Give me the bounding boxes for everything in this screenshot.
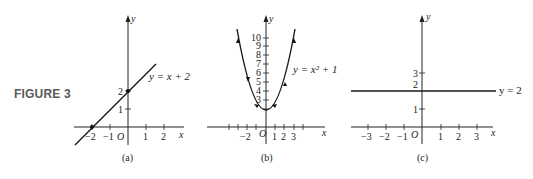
- x-tick-label: 1: [272, 131, 277, 142]
- panel-c: −3 −2 −1 1 2 3 O x y 1 2 3 y = 2 (c): [351, 11, 522, 164]
- x-tick-label: −2: [85, 131, 96, 142]
- y-tick-label: 10: [251, 32, 261, 43]
- origin-label: O: [117, 131, 124, 142]
- x-tick-label: −2: [240, 131, 251, 142]
- y-tick-label: 3: [413, 68, 418, 79]
- panel-b: −2 1 2 3 O x y 3 4 5 6 7 8 9 10 y = x² +…: [207, 13, 337, 164]
- x-tick-label: 3: [474, 131, 479, 142]
- point-y-intercept: [126, 89, 130, 93]
- x-tick-label: −1: [397, 131, 408, 142]
- origin-label: O: [411, 129, 418, 140]
- x-axis-label: x: [490, 127, 496, 138]
- point-x-intercept: [90, 125, 94, 129]
- x-tick-label: −2: [379, 131, 390, 142]
- equation-label: y = x² + 1: [292, 63, 337, 75]
- y-tick-label: 2: [118, 86, 123, 97]
- y-axis-arrow-icon: [420, 15, 425, 22]
- figure-graphs: −2 −1 1 2 1 2 O x y y = x + 2 (a): [0, 0, 533, 179]
- panel-caption: (c): [417, 152, 428, 164]
- x-tick-label: 2: [161, 131, 166, 142]
- y-axis-label: y: [130, 13, 136, 24]
- y-tick-label: 2: [413, 79, 418, 90]
- y-axis-label: y: [425, 11, 431, 22]
- equation-label: y = 2: [499, 84, 522, 96]
- y-axis-arrow-icon: [264, 15, 269, 22]
- panel-a: −2 −1 1 2 1 2 O x y y = x + 2 (a): [74, 13, 191, 164]
- y-axis-label: y: [268, 13, 274, 24]
- x-tick-label: 1: [438, 131, 443, 142]
- y-tick-label: 1: [118, 104, 123, 115]
- panel-caption: (a): [122, 152, 133, 164]
- origin-label: O: [259, 128, 266, 139]
- x-tick-label: 1: [143, 131, 148, 142]
- x-axis-label: x: [178, 129, 184, 140]
- x-axis-label: x: [321, 127, 327, 138]
- x-tick-label: 2: [281, 131, 286, 142]
- x-tick-label: −3: [361, 131, 372, 142]
- y-axis-arrow-icon: [126, 15, 131, 22]
- x-tick-label: −1: [103, 131, 114, 142]
- x-tick-label: 2: [456, 131, 461, 142]
- y-tick-label: 1: [413, 104, 418, 115]
- panel-caption: (b): [261, 152, 273, 164]
- equation-label: y = x + 2: [148, 70, 191, 82]
- x-tick-label: 3: [291, 131, 296, 142]
